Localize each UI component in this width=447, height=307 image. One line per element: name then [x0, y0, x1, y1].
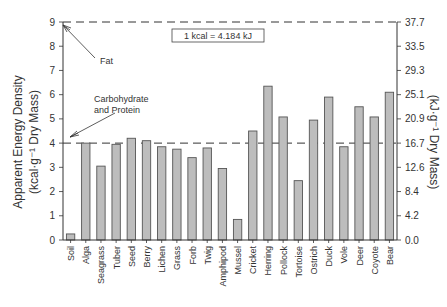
fat-annotation: Fat — [63, 25, 114, 66]
plot-area — [63, 22, 397, 240]
x-tick-label: Coyote — [370, 246, 380, 275]
x-tick-label: Ostrich — [309, 246, 319, 275]
bar-cricket — [249, 131, 257, 240]
bar-grass — [173, 149, 181, 240]
bar-mussel — [233, 219, 241, 240]
y-axis-title: Apparent Energy Density — [11, 75, 25, 208]
energy-density-bar-chart: 0123456789 0.04.28.412.616.720.925.129.3… — [0, 0, 447, 307]
x-tick-label: Pollock — [279, 246, 289, 276]
y-axis-right-title: (kJ·g⁻¹ Dry Mass) — [427, 95, 441, 190]
bar-vole — [340, 147, 348, 240]
fat-arrow-icon — [63, 25, 71, 32]
bar-pollock — [279, 117, 287, 240]
y-tick-right-label: 29.3 — [405, 65, 425, 76]
x-tick-label: Soil — [66, 246, 76, 261]
conversion-note-text: 1 kcal = 4.184 kJ — [184, 31, 252, 41]
y-tick-right-label: 12.6 — [405, 162, 425, 173]
x-tick-label: Forb — [188, 246, 198, 265]
x-tick-label: Lichen — [157, 246, 167, 273]
y-tick-right-label: 4.2 — [405, 210, 419, 221]
y-tick-label: 4 — [49, 138, 55, 149]
bar-berry — [142, 141, 150, 240]
x-tick-label: Amphipod — [218, 246, 228, 287]
x-tick-label: Vole — [339, 246, 349, 264]
x-tick-label: Tortoise — [294, 246, 304, 278]
x-tick-label: Cricket — [248, 246, 258, 275]
y-tick-right-label: 37.7 — [405, 17, 425, 28]
y-tick-right-label: 20.9 — [405, 113, 425, 124]
bar-bear — [385, 92, 393, 240]
y-tick-label: 7 — [49, 65, 55, 76]
carb-label-line1: Carbohydrate — [94, 94, 149, 104]
y-axis-units: (kcal·g⁻¹ Dry Mass) — [27, 90, 41, 194]
y-tick-right-label: 16.7 — [405, 138, 425, 149]
fat-label: Fat — [100, 56, 114, 66]
bar-ostrich — [309, 120, 317, 240]
bar-deer — [355, 107, 363, 240]
y-tick-label: 2 — [49, 186, 55, 197]
bar-tuber — [112, 144, 120, 240]
y-tick-label: 8 — [49, 41, 55, 52]
x-tick-label: Twig — [203, 246, 213, 265]
bar-seagrass — [97, 166, 105, 240]
y-axis-right: 0.04.28.412.616.720.925.129.333.537.7 — [397, 17, 425, 246]
bar-duck — [325, 97, 333, 240]
y-tick-right-label: 0.0 — [405, 235, 419, 246]
x-tick-label: Alga — [81, 246, 91, 264]
x-axis: SoilAlgaSeagrassTuberSeedBerryLichenGras… — [63, 240, 397, 287]
bar-lichen — [158, 147, 166, 240]
conversion-note: 1 kcal = 4.184 kJ — [172, 29, 264, 42]
x-tick-label: Herring — [263, 246, 273, 276]
x-tick-label: Deer — [355, 246, 365, 266]
y-tick-right-label: 33.5 — [405, 41, 425, 52]
bar-tortoise — [294, 181, 302, 240]
y-tick-label: 5 — [49, 113, 55, 124]
bar-soil — [66, 234, 74, 240]
carb-arrow-icon — [70, 131, 79, 137]
bar-coyote — [370, 117, 378, 240]
y-tick-label: 9 — [49, 17, 55, 28]
bar-forb — [188, 158, 196, 240]
bar-seed — [127, 138, 135, 240]
y-tick-label: 3 — [49, 162, 55, 173]
carb-protein-annotation: Carbohydrate and Protein — [70, 94, 149, 137]
bar-twig — [203, 148, 211, 240]
x-tick-label: Tuber — [112, 246, 122, 269]
x-tick-label: Duck — [324, 246, 334, 267]
x-tick-label: Mussel — [233, 246, 243, 275]
y-tick-right-label: 8.4 — [405, 186, 419, 197]
carb-label-line2: and Protein — [94, 105, 140, 115]
y-tick-right-label: 25.1 — [405, 89, 425, 100]
bar-alga — [82, 143, 90, 240]
bar-amphipod — [218, 169, 226, 240]
y-tick-label: 1 — [49, 210, 55, 221]
bar-herring — [264, 86, 272, 240]
x-tick-label: Grass — [172, 246, 182, 271]
y-tick-label: 6 — [49, 89, 55, 100]
x-tick-label: Bear — [385, 246, 395, 265]
x-tick-label: Seed — [127, 246, 137, 267]
x-tick-label: Berry — [142, 246, 152, 268]
y-tick-label: 0 — [49, 235, 55, 246]
x-tick-label: Seagrass — [96, 246, 106, 285]
y-axis-left: 0123456789 — [49, 17, 63, 246]
